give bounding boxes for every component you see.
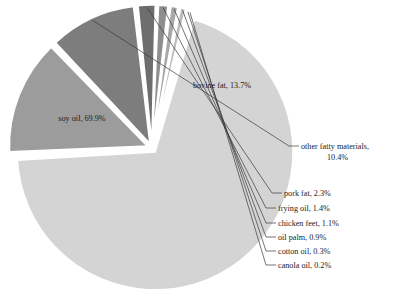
- slice-label-frying-oil: frying oil, 1.4%: [278, 204, 330, 213]
- pie-chart: soy oil, 69.9%bovine fat, 13.7%other fat…: [0, 0, 396, 294]
- pie-slices-group: [9, 5, 293, 290]
- slice-label-canola-oil: canola oil, 0.2%: [278, 261, 331, 270]
- slice-label-other-fatty-materials-line2: 10.4%: [327, 153, 348, 162]
- slice-label-chicken-feet: chicken feet, 1.1%: [278, 219, 339, 228]
- slice-label-cotton-oil: cotton oil, 0.3%: [278, 247, 330, 256]
- slice-label-bovine-fat: bovine fat, 13.7%: [193, 81, 251, 90]
- slice-label-oil-palm: oil palm, 0.9%: [278, 233, 326, 242]
- pie-chart-canvas: soy oil, 69.9%bovine fat, 13.7%other fat…: [0, 0, 396, 294]
- slice-label-pork-fat: pork fat, 2.3%: [284, 189, 331, 198]
- slice-label-soy-oil: soy oil, 69.9%: [58, 114, 105, 123]
- slice-label-other-fatty-materials: other fatty materials,: [301, 142, 369, 151]
